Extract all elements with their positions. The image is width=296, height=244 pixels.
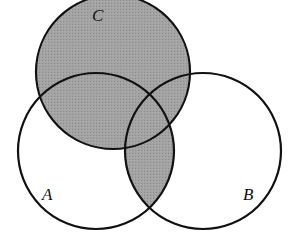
venn-diagram: A B C <box>0 0 296 244</box>
set-b-label: B <box>243 185 254 204</box>
set-c-label: C <box>92 6 104 25</box>
set-a-label: A <box>41 185 53 204</box>
